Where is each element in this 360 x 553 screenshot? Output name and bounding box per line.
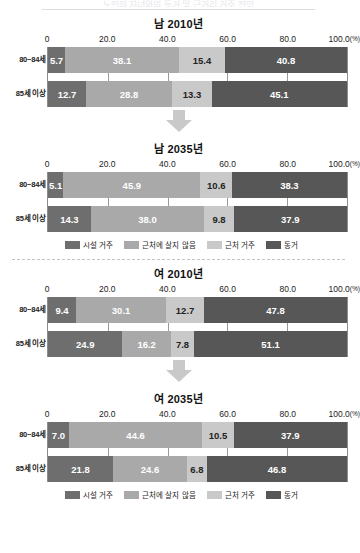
transition-arrow-wrap <box>0 107 357 135</box>
bar-segment: 6.8 <box>187 456 207 482</box>
axis-tick-2: 40.0 <box>159 34 176 44</box>
legend-item-2[interactable]: 근처에 살지 않음 <box>124 239 195 250</box>
bar-row-gap <box>48 198 347 206</box>
bar-segment: 38.0 <box>91 206 205 232</box>
x-axis-tick-labels: 020.040.060.080.0100.0(%) <box>47 284 348 297</box>
bar-segment: 46.8 <box>207 456 347 482</box>
down-arrow-icon <box>166 360 192 382</box>
bar-value-label: 10.5 <box>209 430 228 441</box>
bar-row-label: 80~84세 <box>2 47 46 73</box>
bar-segment: 10.6 <box>200 172 232 198</box>
bar-value-label: 44.6 <box>126 430 145 441</box>
legend-swatch-icon-2 <box>124 491 139 499</box>
bar-segment: 13.3 <box>172 81 212 107</box>
bar-segment: 37.9 <box>234 422 347 448</box>
legend-label-3: 근처 거주 <box>225 489 255 500</box>
bar-row: 85세 이상24.916.27.851.1 <box>48 331 347 357</box>
legend-label-3: 근처 거주 <box>225 239 255 250</box>
bar-row-label: 85세 이상 <box>2 456 46 482</box>
bar-segment: 5.1 <box>48 172 63 198</box>
legend-item-4[interactable]: 동거 <box>266 239 298 250</box>
bar-segment: 14.3 <box>48 206 91 232</box>
axis-tick-2: 40.0 <box>159 409 176 419</box>
bar-value-label: 40.8 <box>277 55 296 66</box>
axis-unit-label: (%) <box>350 35 360 42</box>
bar-segment: 12.7 <box>166 297 204 323</box>
bar-segment: 45.9 <box>63 172 200 198</box>
bar-row: 80~84세5.145.910.638.3 <box>48 172 347 198</box>
bar-value-label: 30.1 <box>112 305 131 316</box>
axis-tick-0: 0 <box>45 409 50 419</box>
bar-segment: 38.1 <box>65 47 179 73</box>
bar-row-label: 85세 이상 <box>2 331 46 357</box>
legend-item-2[interactable]: 근처에 살지 않음 <box>124 489 195 500</box>
bar-value-label: 21.8 <box>71 464 90 475</box>
bar-segment: 24.9 <box>48 331 122 357</box>
bar-row: 85세 이상21.824.66.846.8 <box>48 456 347 482</box>
plot-area-2: 020.040.060.080.0100.0(%)80~84세5.145.910… <box>47 159 348 232</box>
axis-tick-4: 80.0 <box>280 34 297 44</box>
chart-4: 여 2035년020.040.060.080.0100.0(%)80~84세7.… <box>0 390 357 482</box>
axis-tick-5: 100.0(%) <box>329 159 360 169</box>
axis-tick-5: 100.0(%) <box>329 34 360 44</box>
legend-item-4[interactable]: 동거 <box>266 489 298 500</box>
bar-segment: 37.9 <box>234 206 347 232</box>
legend-item-3[interactable]: 근처 거주 <box>207 489 255 500</box>
bar-segment: 7.0 <box>48 422 69 448</box>
legend-label-4: 동거 <box>284 489 298 500</box>
chart-2: 남 2035년020.040.060.080.0100.0(%)80~84세5.… <box>0 140 357 232</box>
bar-row-gap <box>48 448 347 456</box>
bar-value-label: 37.9 <box>281 214 300 225</box>
axis-tick-2: 40.0 <box>159 159 176 169</box>
axis-tick-0: 0 <box>45 34 50 44</box>
bar-segment: 10.5 <box>202 422 233 448</box>
charts-container: 남 2010년020.040.060.080.0100.0(%)80~84세5.… <box>0 15 357 500</box>
bar-value-label: 12.7 <box>176 305 195 316</box>
bar-value-label: 7.8 <box>176 339 189 350</box>
axis-tick-0: 0 <box>45 159 50 169</box>
bar-value-label: 24.9 <box>76 339 95 350</box>
bar-row: 80~84세5.738.115.440.8 <box>48 47 347 73</box>
legend-item-3[interactable]: 근처 거주 <box>207 239 255 250</box>
legend-item-1[interactable]: 시설 거주 <box>65 489 113 500</box>
bars-area-4: 80~84세7.044.610.537.985세 이상21.824.66.846… <box>47 422 348 482</box>
plot-area-4: 020.040.060.080.0100.0(%)80~84세7.044.610… <box>47 409 348 482</box>
chart-title-2: 남 2035년 <box>0 140 357 156</box>
bar-value-label: 6.8 <box>190 464 203 475</box>
axis-tick-1: 20.0 <box>99 159 116 169</box>
bar-row: 80~84세7.044.610.537.9 <box>48 422 347 448</box>
bar-segment: 16.2 <box>122 331 170 357</box>
bar-segment: 40.8 <box>225 47 347 73</box>
bar-value-label: 5.1 <box>49 180 62 191</box>
bar-value-label: 14.3 <box>60 214 79 225</box>
bar-row-label: 80~84세 <box>2 172 46 198</box>
chart-1: 남 2010년020.040.060.080.0100.0(%)80~84세5.… <box>0 15 357 107</box>
axis-unit-label: (%) <box>350 285 360 292</box>
bar-segment: 15.4 <box>179 47 225 73</box>
axis-tick-5: 100.0(%) <box>329 409 360 419</box>
bar-value-label: 5.7 <box>50 55 63 66</box>
legend-item-1[interactable]: 시설 거주 <box>65 239 113 250</box>
bar-value-label: 12.7 <box>58 89 77 100</box>
bar-value-label: 10.6 <box>207 180 226 191</box>
axis-unit-label: (%) <box>350 410 360 417</box>
chart-title-1: 남 2010년 <box>0 15 357 31</box>
bar-value-label: 16.2 <box>137 339 156 350</box>
legend-label-2: 근처에 살지 않음 <box>142 239 195 250</box>
axis-tick-5: 100.0(%) <box>329 284 360 294</box>
bar-value-label: 47.8 <box>266 305 285 316</box>
chart-legend: 시설 거주근처에 살지 않음근처 거주동거 <box>0 239 357 250</box>
bar-segment: 5.7 <box>48 47 65 73</box>
chart-title-4: 여 2035년 <box>0 390 357 406</box>
bar-segment: 24.6 <box>113 456 187 482</box>
axis-tick-1: 20.0 <box>99 34 116 44</box>
transition-arrow-wrap <box>0 357 357 385</box>
bar-row-label: 85세 이상 <box>2 81 46 107</box>
axis-tick-3: 60.0 <box>219 409 236 419</box>
bar-value-label: 24.6 <box>141 464 160 475</box>
axis-tick-4: 80.0 <box>280 284 297 294</box>
bar-value-label: 9.8 <box>212 214 225 225</box>
bar-value-label: 15.4 <box>193 55 212 66</box>
plot-area-1: 020.040.060.080.0100.0(%)80~84세5.738.115… <box>47 34 348 107</box>
